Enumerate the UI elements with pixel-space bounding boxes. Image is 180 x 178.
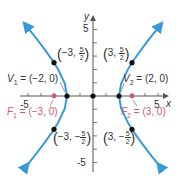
y-tick-label-5: 5 bbox=[83, 24, 89, 34]
focus-f2-label: F2 = (3, 0) bbox=[121, 107, 166, 119]
vertex-v2-label: V2 = (2, 0) bbox=[123, 74, 168, 86]
point-neg3-neg52-label: (−3, −52) bbox=[53, 130, 91, 145]
x-axis-label: x bbox=[166, 99, 171, 109]
focus-f2-dot bbox=[130, 94, 135, 99]
hyperbola-graph bbox=[0, 0, 180, 178]
point-neg3-pos52-label: (−3, 52) bbox=[57, 46, 89, 61]
focus-f1-dot bbox=[52, 94, 57, 99]
point-pos3-neg52-label: (3, −52) bbox=[103, 130, 135, 145]
point-neg3-pos52-dot bbox=[51, 60, 56, 65]
vertex-v2-dot bbox=[116, 93, 121, 98]
vertex-v1-label: V1 = (−2, 0) bbox=[7, 74, 58, 86]
point-pos3-pos52-label: (3, 52) bbox=[103, 46, 129, 61]
point-pos3-pos52-dot bbox=[129, 60, 134, 65]
vertex-v1-dot bbox=[64, 93, 69, 98]
focus-f1-label: F1 = (−3, 0) bbox=[7, 107, 58, 119]
center-dot bbox=[90, 93, 95, 98]
y-tick-label-neg5: -5 bbox=[77, 158, 86, 168]
y-axis-label: y bbox=[84, 12, 89, 22]
